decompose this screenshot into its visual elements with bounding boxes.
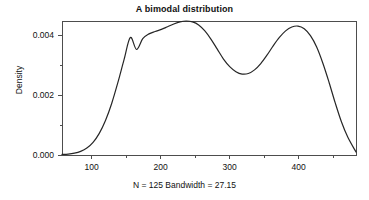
plot-frame xyxy=(62,21,356,155)
density-curve-path xyxy=(62,21,356,154)
y-tick-marks xyxy=(58,35,62,155)
density-plot-figure: A bimodal distribution Density N = 125 B… xyxy=(0,0,369,200)
x-tick-marks xyxy=(92,155,334,159)
plot-area xyxy=(0,0,369,200)
